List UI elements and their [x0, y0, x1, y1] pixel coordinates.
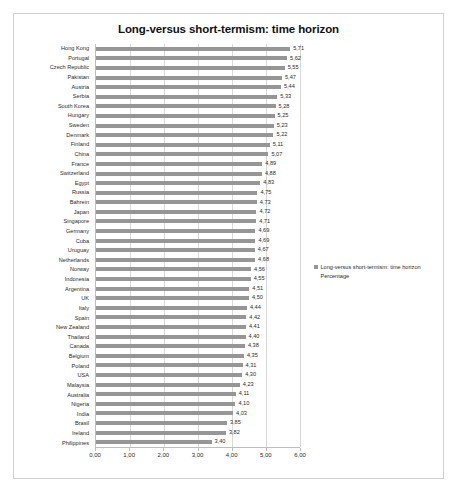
bar-row[interactable]: 5,22 [96, 130, 300, 140]
bar-row[interactable]: 5,71 [96, 44, 300, 54]
bar[interactable] [96, 95, 277, 99]
bar-row[interactable]: 4,30 [96, 370, 300, 380]
bar[interactable] [96, 56, 287, 60]
bar-row[interactable]: 5,33 [96, 92, 300, 102]
bar-row[interactable]: 5,28 [96, 102, 300, 112]
bar-row[interactable]: 4,50 [96, 293, 300, 303]
bar[interactable] [96, 344, 245, 348]
bar[interactable] [96, 104, 276, 108]
bar-row[interactable]: 4,68 [96, 255, 300, 265]
bar[interactable] [96, 181, 260, 185]
bar[interactable] [96, 315, 246, 319]
bar-row[interactable]: 4,89 [96, 159, 300, 169]
bar-row[interactable]: 4,73 [96, 198, 300, 208]
bar-row[interactable]: 5,11 [96, 140, 300, 150]
bar[interactable] [96, 431, 226, 435]
bar[interactable] [96, 219, 256, 223]
bar[interactable] [96, 325, 246, 329]
bar[interactable] [96, 421, 227, 425]
bar-row[interactable]: 4,75 [96, 188, 300, 198]
bar-row[interactable]: 4,55 [96, 274, 300, 284]
bar[interactable] [96, 373, 242, 377]
bar-value-label: 3,40 [212, 439, 226, 445]
bar[interactable] [96, 152, 268, 156]
bar-row[interactable]: 4,88 [96, 169, 300, 179]
bar-row[interactable]: 5,62 [96, 54, 300, 64]
bar[interactable] [96, 354, 244, 358]
bar[interactable] [96, 66, 285, 70]
bar[interactable] [96, 124, 274, 128]
bar[interactable] [96, 277, 251, 281]
bar-value-label: 5,22 [273, 132, 287, 138]
bar[interactable] [96, 133, 273, 137]
category-label: Cuba [14, 237, 92, 247]
bar[interactable] [96, 296, 249, 300]
bar-row[interactable]: 4,83 [96, 178, 300, 188]
bar[interactable] [96, 172, 262, 176]
bar-row[interactable]: 5,25 [96, 111, 300, 121]
bar-row[interactable]: 4,41 [96, 322, 300, 332]
bar-row[interactable]: 5,44 [96, 82, 300, 92]
bar[interactable] [96, 229, 255, 233]
bar[interactable] [96, 76, 282, 80]
bar[interactable] [96, 440, 212, 444]
bar[interactable] [96, 306, 247, 310]
bar-row[interactable]: 4,11 [96, 389, 300, 399]
bar-row[interactable]: 4,56 [96, 265, 300, 275]
x-axis-tick-label: 3,00 [192, 452, 204, 458]
bar[interactable] [96, 258, 255, 262]
bar-row[interactable]: 4,10 [96, 399, 300, 409]
legend-label: Long-versus short-termism: time horizon … [321, 263, 443, 280]
bar-row[interactable]: 4,23 [96, 380, 300, 390]
bar-row[interactable]: 4,72 [96, 207, 300, 217]
bar-row[interactable]: 5,55 [96, 63, 300, 73]
bar[interactable] [96, 162, 262, 166]
bar-row[interactable]: 4,38 [96, 341, 300, 351]
bar-row[interactable]: 5,07 [96, 150, 300, 160]
bar-row[interactable]: 4,71 [96, 217, 300, 227]
bar-row[interactable]: 4,35 [96, 351, 300, 361]
category-label: Denmark [14, 131, 92, 141]
bar-row[interactable]: 4,42 [96, 313, 300, 323]
bar-row[interactable]: 4,51 [96, 284, 300, 294]
bar-row[interactable]: 4,67 [96, 245, 300, 255]
bar[interactable] [96, 85, 281, 89]
category-axis-labels: Hong KongPortugalCzech RepublicPakistanA… [14, 44, 92, 448]
bar[interactable] [96, 47, 290, 51]
bar-row[interactable]: 4,31 [96, 361, 300, 371]
bar[interactable] [96, 392, 236, 396]
bar-row[interactable]: 3,40 [96, 437, 300, 447]
x-axis: 0,001,002,003,004,005,006,00 [95, 448, 300, 464]
bar-row[interactable]: 5,47 [96, 73, 300, 83]
bar-value-label: 4,56 [251, 267, 265, 273]
bar[interactable] [96, 239, 255, 243]
bar-value-label: 4,10 [235, 401, 249, 407]
category-label: Finland [14, 140, 92, 150]
bar[interactable] [96, 191, 257, 195]
bar[interactable] [96, 383, 240, 387]
bar[interactable] [96, 200, 257, 204]
bar[interactable] [96, 287, 249, 291]
bar-row[interactable]: 4,44 [96, 303, 300, 313]
chart-container: Long-versus short-termism: time horizon … [13, 13, 444, 479]
category-label: Brasil [14, 419, 92, 429]
bar-row[interactable]: 3,85 [96, 418, 300, 428]
category-label: Austria [14, 83, 92, 93]
bar[interactable] [96, 411, 233, 415]
bar[interactable] [96, 363, 243, 367]
bar[interactable] [96, 210, 256, 214]
bar-row[interactable]: 4,69 [96, 236, 300, 246]
bar[interactable] [96, 248, 255, 252]
bar-row[interactable]: 4,03 [96, 409, 300, 419]
bar-row[interactable]: 3,82 [96, 428, 300, 438]
bar-row[interactable]: 5,23 [96, 121, 300, 131]
bar-row[interactable]: 4,69 [96, 226, 300, 236]
bar-series: 5,715,625,555,475,445,335,285,255,235,22… [96, 44, 300, 447]
bar-value-label: 4,40 [246, 334, 260, 340]
bar[interactable] [96, 402, 235, 406]
bar[interactable] [96, 143, 270, 147]
bar[interactable] [96, 267, 251, 271]
bar-row[interactable]: 4,40 [96, 332, 300, 342]
bar[interactable] [96, 114, 275, 118]
bar[interactable] [96, 335, 246, 339]
